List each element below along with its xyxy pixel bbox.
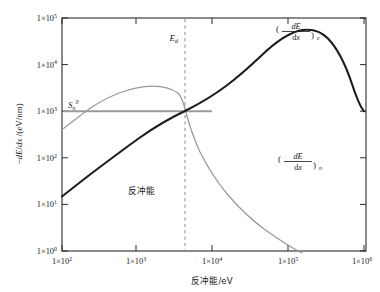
curve-electronic-stopping [62,30,364,197]
label-nuclear-denominator: dx [294,163,302,172]
x-tick-label-4: 1×106 [352,256,372,266]
y-axis-ticks [62,18,366,251]
label-electronic-numerator: dE [291,22,300,31]
recoil-energy-note: 反冲能 [128,185,155,196]
label-electronic-denominator: dx [292,33,300,42]
y-tick-label-2: 1×102 [37,153,57,163]
x-tick-label-3: 1×105 [278,256,298,266]
x-tick-label-1: 1×103 [126,256,146,266]
plot-frame [62,18,366,251]
x-tick-labels: 1×102 1×103 1×104 1×105 1×106 [52,256,372,266]
x-axis-title: 反冲能/eV [191,275,232,286]
y-tick-label-1: 1×101 [37,199,57,209]
x-tick-label-2: 1×104 [202,256,222,266]
paren-close-e: ) [311,30,314,40]
y-tick-label-0: 1×100 [37,246,57,256]
ed-label: Ed [169,33,179,44]
label-nuclear-subscript: n [319,165,322,171]
x-tick-label-0: 1×102 [52,256,72,266]
y-axis-title: −dE/dx /(eV/nm) [14,103,24,164]
curve-label-nuclear: ( dE dx ) n [278,152,322,172]
paren-close-n: ) [313,160,316,170]
y-tick-label-3: 1×103 [37,106,57,116]
y-tick-labels: 1×105 1×104 1×103 1×102 1×101 1×100 [37,13,57,256]
sn0-label: Sn0 [68,99,78,111]
svg-text:−dE/dx /(eV/nm): −dE/dx /(eV/nm) [14,103,24,164]
x-axis-ticks [62,18,364,251]
y-tick-label-5: 1×105 [37,13,57,23]
y-tick-label-4: 1×104 [37,59,57,69]
paren-open-n: ( [278,154,281,164]
label-electronic-subscript: e [317,35,320,41]
paren-open-e: ( [276,24,279,34]
label-nuclear-numerator: dE [293,152,302,161]
stopping-power-chart: 1×105 1×104 1×103 1×102 1×101 1×100 1×10… [0,0,380,292]
